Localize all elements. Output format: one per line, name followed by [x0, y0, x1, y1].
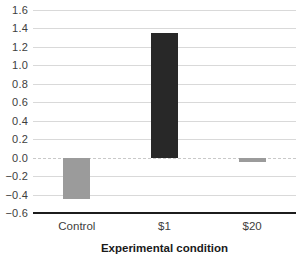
bar-20: [239, 158, 266, 163]
y-tick-label: 0.4: [0, 115, 28, 127]
bar-chart: Experimental condition 1.61.41.21.00.80.…: [0, 0, 296, 257]
y-tick-label: 1.2: [0, 41, 28, 53]
y-tick-label: 1.4: [0, 22, 28, 34]
y-tick-label: 0.6: [0, 96, 28, 108]
x-tick-label: $1: [120, 220, 210, 233]
y-tick-label: −0.4: [0, 189, 28, 201]
y-tick-label: −0.6: [0, 207, 28, 219]
y-tick-label: 1.0: [0, 59, 28, 71]
x-axis-line: [33, 212, 296, 214]
bar-1: [151, 33, 178, 158]
gridline: [33, 10, 296, 11]
y-tick-label: 0.2: [0, 133, 28, 145]
x-tick-label: $20: [207, 220, 296, 233]
y-tick-label: 0.0: [0, 152, 28, 164]
y-tick-label: −0.2: [0, 170, 28, 182]
y-tick-label: 1.6: [0, 4, 28, 16]
x-tick-label: Control: [32, 220, 122, 233]
gridline: [33, 28, 296, 29]
bar-control: [63, 158, 90, 200]
y-tick-label: 0.8: [0, 78, 28, 90]
x-axis-title: Experimental condition: [33, 242, 296, 255]
